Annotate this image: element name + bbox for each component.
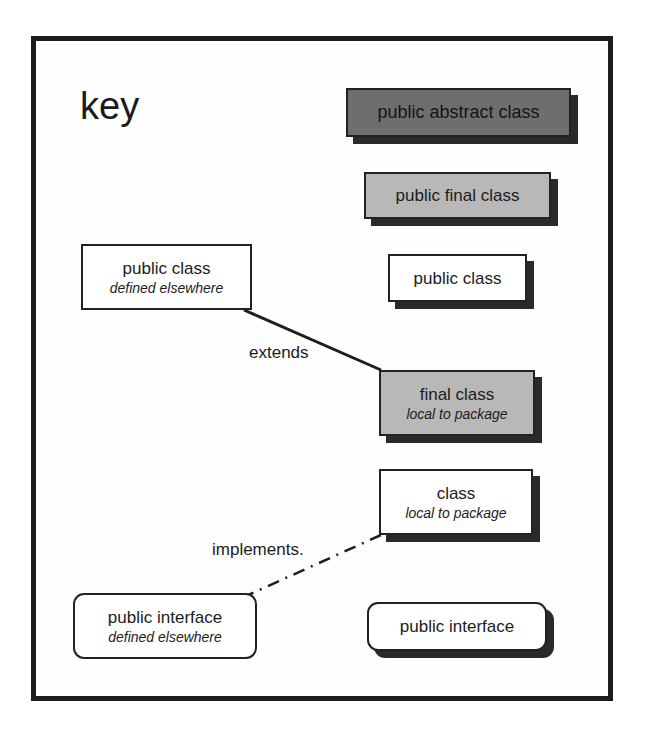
public-final-class-label: public final class (396, 185, 520, 206)
public-class-label: public class (414, 268, 502, 289)
final-class-local-label: final class (420, 384, 495, 405)
public-abstract-class-box: public abstract class (346, 88, 571, 137)
final-class-local-sublabel: local to package (406, 405, 507, 423)
public-class-box: public class (388, 254, 527, 302)
public-class-elsewhere-sublabel: defined elsewhere (110, 279, 224, 297)
public-interface-elsewhere-box: public interface defined elsewhere (73, 593, 257, 659)
final-class-local-box: final class local to package (379, 370, 535, 436)
public-interface-box: public interface (367, 602, 547, 651)
implements-label: implements. (212, 540, 304, 560)
class-local-sublabel: local to package (405, 504, 506, 522)
public-final-class-box: public final class (364, 172, 551, 219)
public-class-elsewhere-box: public class defined elsewhere (81, 244, 252, 310)
class-local-box: class local to package (379, 469, 533, 535)
public-abstract-class-label: public abstract class (377, 102, 539, 123)
public-interface-elsewhere-sublabel: defined elsewhere (108, 628, 222, 646)
public-interface-label: public interface (400, 616, 514, 637)
key-title: key (80, 86, 139, 126)
extends-label: extends (249, 343, 309, 363)
class-local-label: class (437, 483, 476, 504)
public-interface-elsewhere-label: public interface (108, 607, 222, 628)
public-class-elsewhere-label: public class (123, 258, 211, 279)
